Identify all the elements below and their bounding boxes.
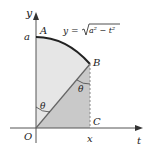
equation-lhs: y = bbox=[62, 26, 81, 36]
point-B-label: B bbox=[92, 57, 100, 68]
point-A-label: A bbox=[39, 25, 47, 36]
point-O-label: O bbox=[24, 131, 32, 142]
angle-theta-O-label: θ bbox=[40, 101, 46, 111]
equation-radicand: a² − t² bbox=[89, 26, 115, 35]
point-C-label: C bbox=[93, 116, 101, 127]
x-tick-label: x bbox=[87, 133, 93, 144]
t-axis-label: t bbox=[137, 135, 142, 146]
t-axis-arrow-icon bbox=[135, 125, 143, 131]
y-tick-a-label: a bbox=[24, 31, 30, 42]
circle-sector-diagram: y t A B C O a x θ θ y = a² − t² bbox=[0, 0, 149, 150]
diagram-canvas: y t A B C O a x θ θ y = a² − t² bbox=[0, 0, 149, 150]
y-axis-label: y bbox=[25, 7, 33, 20]
angle-theta-B-label: θ bbox=[78, 84, 84, 94]
y-axis-arrow-icon bbox=[33, 12, 39, 20]
